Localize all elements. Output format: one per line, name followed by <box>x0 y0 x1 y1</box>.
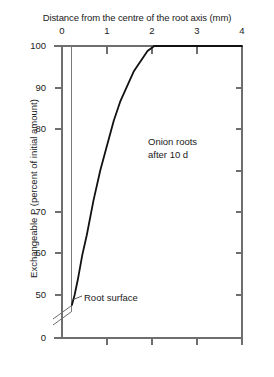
series-annotation: Onion roots after 10 d <box>148 136 197 161</box>
chart-figure: Distance from the centre of the root axi… <box>0 0 274 377</box>
plot-canvas <box>0 0 274 377</box>
series-annotation-line-2: after 10 d <box>148 149 197 162</box>
y-axis-ticks-right <box>236 88 242 295</box>
data-series-curve <box>72 46 242 305</box>
root-surface-annotation: Root surface <box>84 292 138 305</box>
y-axis-ticks-left <box>54 46 62 338</box>
series-annotation-line-1: Onion roots <box>148 136 197 149</box>
